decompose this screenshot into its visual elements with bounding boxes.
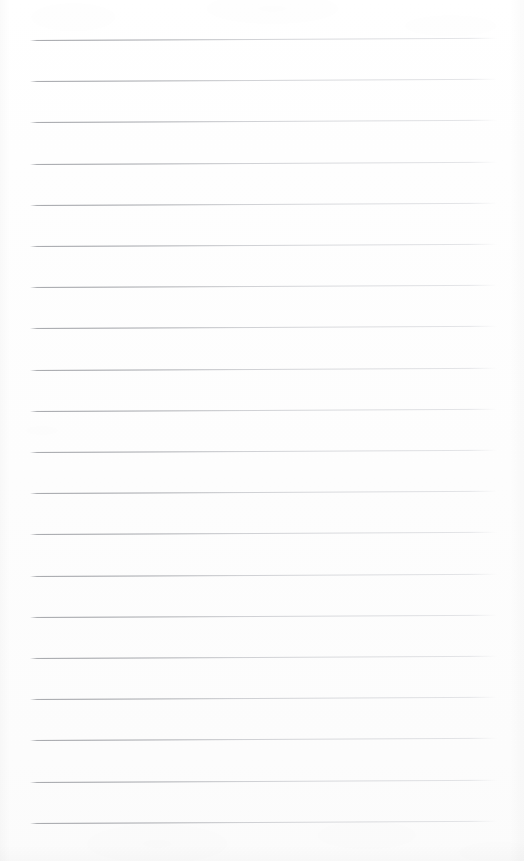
paper-background: [0, 0, 524, 861]
notebook-page: [0, 0, 524, 861]
